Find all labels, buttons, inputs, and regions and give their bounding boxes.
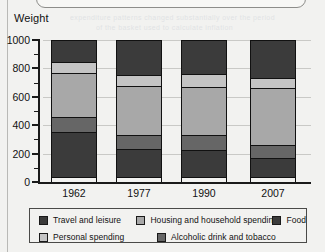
bar-segment[interactable] [182, 87, 226, 136]
x-tick-label-1962: 1962 [51, 187, 97, 199]
top-rounded-box [36, 0, 306, 8]
bar-segment[interactable] [251, 145, 295, 159]
bar-1962[interactable] [51, 40, 97, 182]
y-tick-minor [34, 111, 39, 112]
y-tick-label: 800 [12, 62, 30, 74]
plot-area: 02004006008001000 1962197719902007 [43, 40, 311, 182]
bar-segment[interactable] [117, 86, 161, 136]
legend-label-food: Food [286, 215, 306, 225]
chart-legend: Travel and leisure Housing and household… [29, 208, 307, 243]
legend-label-travel-and-leisure: Travel and leisure [53, 215, 121, 225]
y-tick-label: 0 [24, 176, 30, 188]
bar-segment[interactable] [251, 158, 295, 178]
y-tick-major [32, 124, 39, 126]
bar-2007[interactable] [250, 40, 296, 182]
ghost-text-line-2: of the basket used to calculate inflatio… [96, 24, 306, 34]
legend-item-travel-and-leisure: Travel and leisure [39, 215, 136, 225]
ghost-text-line-1: expenditure patterns changed substantial… [70, 14, 320, 24]
x-axis-line [38, 182, 311, 184]
y-tick-major [32, 39, 39, 41]
legend-row-1: Travel and leisure Housing and household… [30, 213, 306, 227]
bar-segment[interactable] [52, 40, 96, 63]
legend-item-housing-and-household-spending: Housing and household spending [136, 215, 272, 225]
bar-segment[interactable] [182, 135, 226, 151]
y-tick-major [32, 67, 39, 69]
chart-page: expenditure patterns changed substantial… [0, 0, 325, 252]
bar-segment[interactable] [52, 132, 96, 178]
y-tick-label: 1000 [7, 34, 30, 46]
legend-label-alcoholic-drink-and-tobacco: Alcoholic drink and tobacco [171, 232, 276, 242]
y-tick-major [32, 181, 39, 183]
x-tick-label-2007: 2007 [250, 187, 296, 199]
bar-1977[interactable] [116, 40, 162, 182]
bar-segment[interactable] [117, 135, 161, 150]
bar-segment[interactable] [52, 117, 96, 133]
legend-swatch-alcoholic-drink-and-tobacco [157, 233, 166, 242]
legend-row-2: Personal spending Alcoholic drink and to… [30, 230, 306, 244]
y-tick-label: 400 [12, 119, 30, 131]
y-axis-title: Weight [14, 12, 49, 24]
y-tick-major [32, 96, 39, 98]
legend-label-housing-and-household-spending: Housing and household spending [150, 215, 278, 225]
legend-swatch-housing-and-household-spending [136, 216, 145, 225]
y-tick-minor [34, 168, 39, 169]
bar-segment[interactable] [251, 40, 295, 79]
x-tick-label-1990: 1990 [181, 187, 227, 199]
bar-segment[interactable] [182, 150, 226, 178]
y-tick-label: 200 [12, 148, 30, 160]
y-tick-minor [34, 139, 39, 140]
legend-swatch-travel-and-leisure [39, 216, 48, 225]
bar-segment[interactable] [251, 88, 295, 146]
legend-label-personal-spending: Personal spending [53, 232, 124, 242]
legend-item-food: Food [272, 215, 306, 225]
legend-swatch-personal-spending [39, 233, 48, 242]
bar-segment[interactable] [182, 74, 226, 88]
legend-swatch-food [272, 216, 281, 225]
bar-segment[interactable] [117, 40, 161, 76]
y-tick-minor [34, 83, 39, 84]
legend-item-personal-spending: Personal spending [39, 232, 157, 242]
bar-segment[interactable] [52, 73, 96, 117]
bar-segment[interactable] [117, 149, 161, 178]
bar-segment[interactable] [182, 40, 226, 75]
y-tick-label: 600 [12, 91, 30, 103]
bar-1990[interactable] [181, 40, 227, 182]
legend-item-alcoholic-drink-and-tobacco: Alcoholic drink and tobacco [157, 232, 276, 242]
y-tick-minor [34, 54, 39, 55]
x-tick-label-1977: 1977 [116, 187, 162, 199]
y-tick-major [32, 153, 39, 155]
